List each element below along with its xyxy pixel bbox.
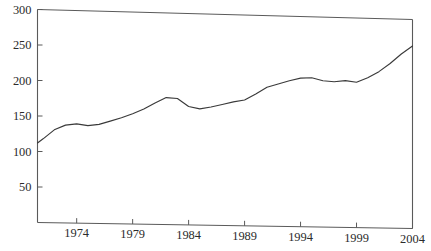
y-axis-ticks <box>38 10 43 188</box>
y-tick-label: 200 <box>13 74 32 88</box>
x-tick-label: 1974 <box>64 226 89 240</box>
y-axis-tick-labels: 50100150200250300 <box>13 3 32 195</box>
x-axis-tick-labels: 1974197919841989199419992004 <box>64 226 425 245</box>
x-tick-label: 1984 <box>176 228 201 242</box>
y-tick-label: 150 <box>13 109 32 123</box>
y-tick-label: 250 <box>13 38 32 52</box>
chart-canvas: 50100150200250300 1974197919841989199419… <box>0 0 431 251</box>
data-series-line <box>38 46 413 143</box>
x-tick-label: 1994 <box>288 230 313 244</box>
x-tick-label: 1999 <box>344 231 369 245</box>
line-chart: 50100150200250300 1974197919841989199419… <box>0 0 431 251</box>
frame-top-border <box>38 10 413 20</box>
x-tick-label: 1989 <box>232 229 257 243</box>
x-tick-label: 2004 <box>400 232 425 246</box>
y-tick-label: 100 <box>13 145 32 159</box>
x-tick-label: 1979 <box>120 227 145 241</box>
plot-frame <box>38 10 413 229</box>
y-tick-label: 300 <box>13 3 32 17</box>
y-tick-label: 50 <box>19 180 31 194</box>
